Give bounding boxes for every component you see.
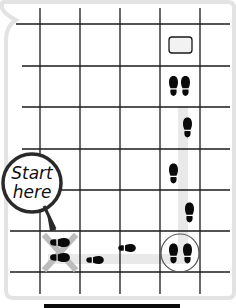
floor-grid-diagram: [0, 0, 236, 308]
footprint-icon: [181, 76, 190, 96]
footprint-icon: [169, 164, 178, 184]
goal-marker: [169, 37, 192, 53]
callout-line-2: here: [3, 183, 61, 202]
footprint-icon: [169, 76, 178, 96]
callout-text: Start here: [3, 164, 61, 202]
bottom-bar: [44, 304, 180, 308]
callout-line-1: Start: [3, 164, 61, 183]
footprint-icon: [118, 244, 136, 252]
grid-lines: [10, 8, 230, 294]
